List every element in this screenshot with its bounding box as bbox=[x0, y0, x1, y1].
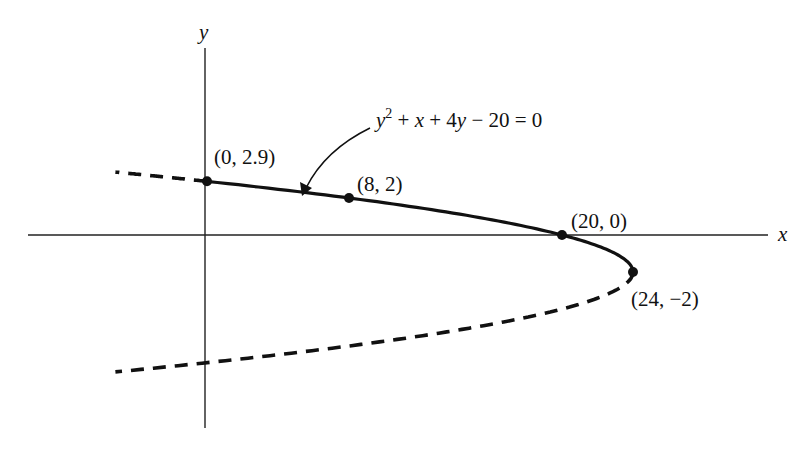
parabola-dashed-lower bbox=[115, 272, 633, 372]
eq-x: x bbox=[415, 108, 424, 132]
eq-plus-4: + 4 bbox=[424, 108, 457, 132]
data-point bbox=[557, 230, 567, 240]
data-point bbox=[628, 267, 638, 277]
x-axis-label: x bbox=[778, 224, 787, 245]
eq-y2: y bbox=[457, 108, 466, 132]
point-label-24-neg2: (24, −2) bbox=[631, 289, 699, 310]
point-label-20-0: (20, 0) bbox=[571, 211, 627, 232]
eq-plus: + bbox=[392, 108, 414, 132]
eq-y: y bbox=[376, 108, 385, 132]
parabola-figure bbox=[0, 0, 800, 449]
point-label-0-2.9: (0, 2.9) bbox=[214, 147, 275, 168]
y-axis-label: y bbox=[199, 22, 208, 43]
parabola-solid-segment bbox=[207, 181, 633, 272]
data-point bbox=[344, 193, 354, 203]
eq-minus-20: − 20 = 0 bbox=[466, 108, 542, 132]
point-label-8-2: (8, 2) bbox=[357, 174, 403, 195]
equation-label: y2 + x + 4y − 20 = 0 bbox=[376, 107, 542, 131]
data-point bbox=[202, 176, 212, 186]
parabola-dashed-upper bbox=[115, 172, 206, 181]
